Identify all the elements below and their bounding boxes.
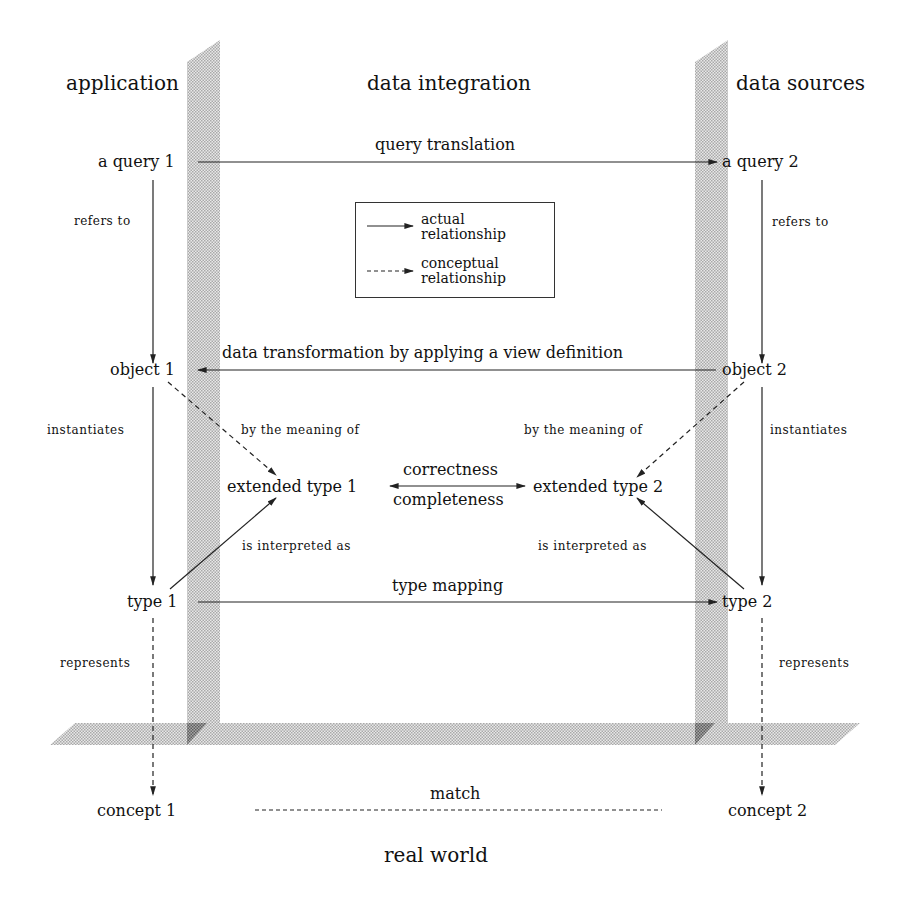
layer-application-label: application: [66, 73, 179, 93]
layer-real-world-label: real world: [384, 845, 488, 865]
node-concept-1: concept 1: [97, 803, 176, 819]
edge-label-instantiates-right: instantiates: [770, 424, 847, 436]
legend-actual-label: actual relationship: [421, 212, 531, 242]
edge-label-refers-to-right: refers to: [772, 216, 829, 228]
node-type-1: type 1: [127, 594, 177, 610]
node-object-1: object 1: [110, 362, 175, 378]
edge-label-correctness: correctness: [403, 462, 498, 478]
edge-label-data-transformation: data transformation by applying a view d…: [222, 345, 623, 361]
edge-label-query-translation: query translation: [375, 137, 515, 153]
real-world-plane: [50, 723, 860, 745]
node-query-2: a query 2: [722, 154, 799, 170]
legend-conceptual-label: conceptual relationship: [421, 256, 531, 286]
left-boundary-band: [187, 40, 220, 723]
node-type-2: type 2: [722, 594, 772, 610]
data-integration-diagram: application data integration data source…: [0, 0, 910, 900]
node-concept-2: concept 2: [728, 803, 807, 819]
edge-label-represents-left: represents: [60, 657, 130, 669]
edge-label-match: match: [430, 786, 480, 802]
edge-label-type-mapping: type mapping: [392, 578, 503, 594]
edge-label-interpreted-right: is interpreted as: [538, 540, 647, 552]
node-query-1: a query 1: [98, 154, 175, 170]
node-object-2: object 2: [722, 362, 787, 378]
edge-label-completeness: completeness: [393, 492, 504, 508]
edge-label-meaning-left: by the meaning of: [241, 424, 359, 436]
right-boundary-band: [695, 40, 728, 723]
edge-label-instantiates-left: instantiates: [47, 424, 124, 436]
layer-data-sources-label: data sources: [736, 73, 865, 93]
layer-data-integration-label: data integration: [367, 73, 531, 93]
edge-label-refers-to-left: refers to: [74, 215, 131, 227]
node-extended-type-1: extended type 1: [227, 479, 357, 495]
edge-label-interpreted-left: is interpreted as: [242, 540, 351, 552]
node-extended-type-2: extended type 2: [533, 479, 663, 495]
edge-label-meaning-right: by the meaning of: [524, 424, 642, 436]
edge-label-represents-right: represents: [779, 657, 849, 669]
